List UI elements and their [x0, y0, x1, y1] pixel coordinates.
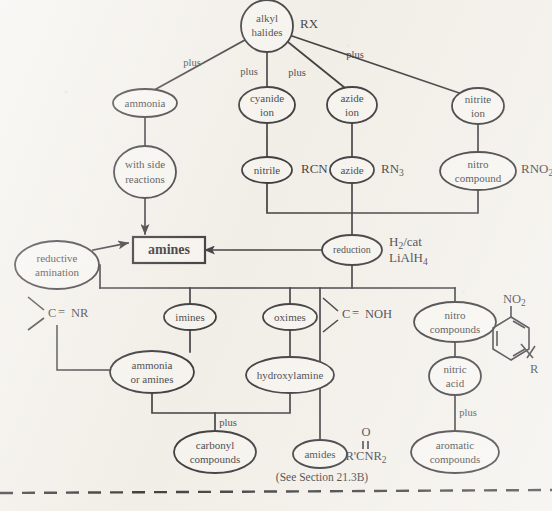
formula-h2-cat: H2/cat	[389, 234, 422, 251]
node-nitrite-ion-line1: nitrite	[465, 93, 491, 105]
node-cyanide-ion-line2: ion	[260, 106, 275, 118]
node-aromatic-compounds[interactable]: aromatic compounds	[411, 431, 499, 473]
node-nitro-compounds[interactable]: nitro compounds	[414, 302, 496, 342]
node-azide-ion-line2: ion	[345, 106, 360, 118]
node-cyanide-ion[interactable]: cyanide ion	[239, 87, 295, 123]
node-nitrite-ion-line2: ion	[471, 107, 486, 119]
node-alkyl-halides-line2: halides	[251, 26, 282, 38]
page-bottom-dashed-rule	[0, 490, 552, 493]
edge-products-bus	[267, 184, 478, 213]
node-azide-ion[interactable]: azide ion	[327, 87, 377, 123]
edge-label-plus-carbonyl: plus	[219, 417, 237, 428]
node-nitro-compounds-line1: nitro	[445, 309, 466, 321]
node-hydroxylamine-label: hydroxylamine	[257, 369, 324, 381]
structure-amide-oxygen: O	[361, 425, 370, 439]
node-reduction[interactable]: reduction	[322, 235, 382, 265]
node-reductive-amination[interactable]: reductive amination	[15, 241, 99, 289]
node-ammonia-label: ammonia	[125, 97, 166, 109]
node-oximes[interactable]: oximes	[263, 304, 317, 330]
formula-rx: RX	[300, 16, 319, 31]
node-amides-label: amides	[304, 448, 335, 460]
node-nitrile[interactable]: nitrile	[242, 157, 292, 183]
node-nitro-compound-line2: compound	[455, 172, 502, 184]
structure-oxime-group: C = NOH	[323, 298, 392, 332]
node-side-reactions-line1: with side	[125, 158, 165, 170]
node-ammonia-or-amines-line2: or amines	[130, 373, 173, 385]
structure-oxime-tail: NOH	[365, 307, 392, 321]
formula-rn3: RN3	[381, 161, 404, 178]
structure-aryl-r: R	[530, 362, 539, 376]
node-amines-box[interactable]: amines	[133, 237, 205, 263]
section-reference-note: (See Section 21.3B)	[276, 471, 368, 484]
edge-label-plus-nitrite: plus	[346, 49, 364, 60]
node-azide-label: azide	[340, 164, 363, 176]
node-oximes-label: oximes	[274, 311, 306, 323]
node-amines-label: amines	[148, 242, 191, 257]
node-amides[interactable]: amides	[293, 440, 347, 468]
structure-amide-formula: R'CNR2	[345, 449, 386, 465]
structure-oxime-c: C	[342, 307, 350, 321]
node-alkyl-halides-line1: alkyl	[256, 12, 278, 24]
node-aromatic-compounds-line2: compounds	[430, 453, 481, 465]
node-imines[interactable]: imines	[164, 304, 216, 330]
structure-imine-bond: =	[58, 305, 65, 319]
node-nitro-compound-line1: nitro	[468, 158, 489, 170]
edge-label-plus-ammonia: plus	[183, 57, 201, 68]
node-azide-ion-line1: azide	[340, 92, 363, 104]
node-azide[interactable]: azide	[330, 157, 374, 183]
node-cyanide-ion-line1: cyanide	[250, 92, 284, 104]
node-side-reactions-line2: reactions	[125, 173, 165, 185]
node-nitrile-label: nitrile	[254, 164, 280, 176]
node-reduction-label: reduction	[333, 244, 371, 255]
node-aromatic-compounds-line1: aromatic	[436, 439, 475, 451]
diagram-page: alkyl halides RX plus plus plus plus amm…	[0, 0, 552, 511]
formula-lialh4: LiAlH4	[389, 250, 428, 267]
formula-rno2: RNO2	[521, 161, 552, 178]
structure-imine-tail: NR	[71, 306, 89, 320]
structure-oxime-bond: =	[352, 306, 359, 320]
edge-label-plus-cyanide: plus	[240, 66, 258, 77]
node-reductive-amination-line2: amination	[35, 266, 79, 278]
node-reductive-amination-line1: reductive	[37, 252, 78, 264]
structure-imine-c: C	[48, 306, 56, 320]
node-nitrite-ion[interactable]: nitrite ion	[452, 88, 504, 124]
node-alkyl-halides[interactable]: alkyl halides	[241, 0, 293, 52]
node-hydroxylamine[interactable]: hydroxylamine	[246, 357, 334, 393]
node-carbonyl-compounds[interactable]: carbonyl compounds	[174, 431, 256, 473]
node-imines-label: imines	[175, 311, 204, 323]
node-nitric-acid[interactable]: nitric acid	[429, 357, 481, 395]
edge-carbonyl-bus	[152, 392, 290, 413]
node-carbonyl-compounds-line2: compounds	[190, 453, 241, 465]
structure-aryl-nitro: NO2 R	[493, 292, 539, 376]
node-nitro-compound[interactable]: nitro compound	[440, 152, 516, 190]
node-nitro-compounds-line2: compounds	[430, 323, 481, 335]
node-ammonia-or-amines-line1: ammonia	[132, 359, 173, 371]
edge-label-plus-aromatic: plus	[459, 407, 477, 418]
formula-rcn: RCN	[301, 161, 328, 176]
edge-imine-group-ammonia	[57, 325, 118, 370]
node-carbonyl-compounds-line1: carbonyl	[196, 439, 234, 451]
node-nitric-acid-line1: nitric	[443, 363, 466, 375]
structure-amide-formula: O R'CNR2	[345, 425, 386, 465]
edge-label-plus-azide: plus	[288, 67, 306, 78]
node-ammonia[interactable]: ammonia	[113, 89, 177, 117]
node-nitric-acid-line2: acid	[446, 377, 465, 389]
amine-synthesis-diagram: alkyl halides RX plus plus plus plus amm…	[0, 0, 552, 511]
structure-aryl-no2: NO2	[503, 292, 526, 308]
edges-top-tier	[145, 36, 478, 157]
structure-imine-group: C = NR	[28, 297, 89, 330]
edge-reductiveamination-amines	[93, 243, 128, 250]
node-with-side-reactions[interactable]: with side reactions	[114, 146, 176, 198]
node-ammonia-or-amines[interactable]: ammonia or amines	[110, 351, 194, 393]
